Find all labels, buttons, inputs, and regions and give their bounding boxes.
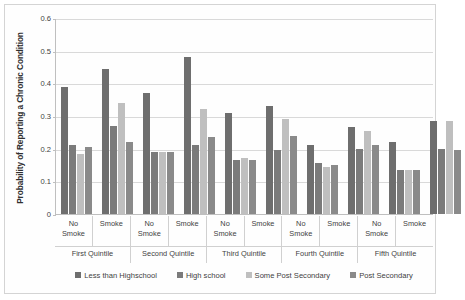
smoking-subgroup [56,19,97,214]
legend-item[interactable]: Some Post Secondary [246,271,331,280]
smoking-subgroup [97,19,138,214]
bar[interactable] [389,142,396,214]
x-axis-subgroup-label: Smoke [169,216,206,246]
bar[interactable] [323,167,330,214]
bar[interactable] [290,136,297,214]
x-axis-subgroup-labels: NoSmokeSmokeNoSmokeSmokeNoSmokeSmokeNoSm… [55,216,433,246]
y-axis-tick-label: 0.1 [40,179,51,187]
y-axis-title: Probability of Reporting a Chronic Condi… [15,8,25,228]
bar[interactable] [143,93,150,214]
chart-legend: Less than HighschoolHigh schoolSome Post… [55,267,433,283]
legend-swatch-icon [246,272,252,278]
bar[interactable] [356,149,363,214]
quintile-subgroup-label-cell: NoSmokeSmoke [282,216,358,246]
legend-swatch-icon [177,272,183,278]
bar[interactable] [348,127,355,214]
bar[interactable] [151,152,158,214]
quintile-subgroup-label-cell: NoSmokeSmoke [207,216,283,246]
bar[interactable] [372,145,379,214]
bar[interactable] [454,150,461,214]
bar[interactable] [413,170,420,214]
bar[interactable] [430,121,437,214]
bar[interactable] [274,150,281,214]
x-axis-subgroup-label: NoSmoke [131,216,169,246]
bar[interactable] [315,163,322,214]
bar[interactable] [167,152,174,214]
smoking-subgroup [138,19,179,214]
y-axis-tick-label: 0.3 [40,113,51,121]
quintile-subgroup-label-cell: NoSmokeSmoke [131,216,207,246]
quintile-group [56,19,138,214]
smoking-subgroup [384,19,425,214]
quintile-subgroup-label-cell: NoSmokeSmoke [358,216,433,246]
smoking-subgroup [425,19,465,214]
x-axis-group-label: Third Quintile [207,247,283,263]
y-axis-tick-label: 0.5 [40,48,51,56]
x-axis-group-label: Second Quintile [131,247,207,263]
bar[interactable] [184,57,191,214]
legend-label: Less than Highschool [84,271,157,280]
bar[interactable] [331,165,338,214]
bar[interactable] [438,149,445,214]
smoking-subgroup [343,19,384,214]
x-axis-subgroup-label: Smoke [320,216,357,246]
x-axis-subgroup-label: NoSmoke [282,216,320,246]
y-axis-tick-label: 0 [47,211,51,219]
bar[interactable] [159,152,166,214]
bar[interactable] [118,103,125,214]
legend-label: Post Secondary [359,271,413,280]
x-axis-group-labels: First QuintileSecond QuintileThird Quint… [55,246,433,263]
bar[interactable] [446,121,453,214]
x-axis-group-label: First Quintile [55,247,131,263]
bar[interactable] [233,160,240,214]
legend-item[interactable]: Post Secondary [350,271,413,280]
legend-item[interactable]: High school [177,271,226,280]
y-axis-tick-label: 0.4 [40,81,51,89]
smoking-subgroup [302,19,343,214]
legend-item[interactable]: Less than Highschool [75,271,157,280]
y-axis-tick-label: 0.6 [40,15,51,23]
bar-groups [56,19,433,214]
quintile-group [138,19,220,214]
bar[interactable] [225,113,232,214]
bar[interactable] [102,69,109,214]
bar[interactable] [282,119,289,214]
bar[interactable] [192,145,199,214]
bar[interactable] [307,145,314,214]
quintile-subgroup-label-cell: NoSmokeSmoke [55,216,131,246]
legend-label: Some Post Secondary [255,271,331,280]
y-axis-tick-label: 0.2 [40,146,51,154]
bar[interactable] [61,87,68,214]
bar[interactable] [266,106,273,214]
legend-swatch-icon [350,272,356,278]
x-axis-subgroup-label: NoSmoke [207,216,245,246]
x-axis-subgroup-label: Smoke [245,216,282,246]
legend-label: High school [186,271,226,280]
bar[interactable] [85,147,92,214]
smoking-subgroup [179,19,220,214]
x-axis-subgroup-label: NoSmoke [358,216,396,246]
x-axis-subgroup-label: NoSmoke [55,216,93,246]
legend-swatch-icon [75,272,81,278]
chart-container: Probability of Reporting a Chronic Condi… [4,4,436,294]
quintile-group [220,19,302,214]
plot-area: 00.10.20.30.40.50.6 [55,19,433,215]
x-axis-group-label: Fourth Quintile [282,247,358,263]
bar[interactable] [77,154,84,214]
x-axis-subgroup-label: Smoke [396,216,433,246]
quintile-group [302,19,384,214]
bar[interactable] [397,170,404,214]
bar[interactable] [208,137,215,214]
bar[interactable] [69,145,76,214]
bar[interactable] [405,170,412,214]
smoking-subgroup [261,19,302,214]
bar[interactable] [364,131,371,214]
bar[interactable] [200,109,207,214]
bar[interactable] [126,142,133,214]
x-axis-subgroup-label: Smoke [93,216,130,246]
bar[interactable] [241,158,248,214]
bar[interactable] [110,126,117,214]
quintile-group [384,19,465,214]
bar[interactable] [249,160,256,214]
x-axis-group-label: Fifth Quintile [358,247,433,263]
